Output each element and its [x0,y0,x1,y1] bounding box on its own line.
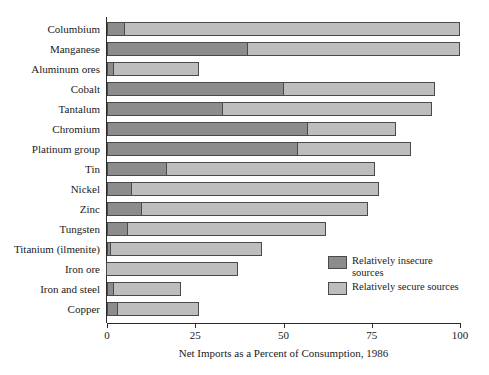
category-label: Manganese [0,42,100,56]
bar-segment-insecure [107,222,128,236]
category-label: Iron ore [0,262,100,276]
x-axis-tick-label: 0 [87,329,127,342]
stacked-bar [107,262,238,276]
bar-row: Manganese [0,42,489,56]
bar-segment-secure [222,102,431,116]
category-label: Tantalum [0,102,100,116]
x-axis-tick [284,323,285,328]
secure-swatch-icon [328,282,347,295]
stacked-bar [107,302,199,316]
bar-segment-secure [247,42,460,56]
stacked-bar [107,202,368,216]
bar-segment-insecure [107,22,125,36]
bar-row: Zinc [0,202,489,216]
category-label: Titanium (ilmenite) [0,242,100,256]
stacked-bar [107,182,379,196]
category-label: Tungsten [0,222,100,236]
bar-segment-secure [124,22,460,36]
bar-row: Nickel [0,182,489,196]
stacked-bar [107,62,199,76]
bar-segment-insecure [107,202,142,216]
stacked-bar [107,142,411,156]
insecure-swatch-icon [328,256,347,269]
bar-segment-secure [110,242,263,256]
bar-segment-insecure [107,82,284,96]
bar-row: Copper [0,302,489,316]
stacked-bar [107,102,432,116]
category-label: Tin [0,162,100,176]
x-axis-tick-label: 100 [440,329,480,342]
stacked-bar [107,222,326,236]
x-axis-tick-label: 25 [175,329,215,342]
category-label: Aluminum ores [0,62,100,76]
x-axis-tick-label: 50 [264,329,304,342]
bar-segment-secure [307,122,396,136]
bar-segment-secure [106,262,238,276]
bar-segment-insecure [107,142,298,156]
bar-segment-secure [113,282,181,296]
bar-segment-secure [166,162,375,176]
x-axis-tick-label: 75 [352,329,392,342]
bar-row: Chromium [0,122,489,136]
category-label: Columbium [0,22,100,36]
stacked-bar [107,162,375,176]
bar-segment-secure [297,142,411,156]
x-axis-tick [107,323,108,328]
legend-label-secure: Relatively secure sources [352,281,459,293]
bar-segment-secure [127,222,326,236]
bar-segment-secure [117,302,199,316]
bar-segment-secure [113,62,199,76]
x-axis-tick [372,323,373,328]
chart-legend: Relatively insecure sources Relatively s… [328,255,468,298]
bar-segment-insecure [107,102,223,116]
bar-segment-insecure [107,182,132,196]
bar-segment-secure [283,82,436,96]
category-label: Iron and steel [0,282,100,296]
category-label: Nickel [0,182,100,196]
bar-segment-secure [141,202,368,216]
legend-item-insecure: Relatively insecure sources [328,255,468,278]
bar-segment-insecure [107,42,248,56]
x-axis-tick [460,323,461,328]
stacked-bar [107,242,262,256]
stacked-bar [107,22,460,36]
bar-row: Cobalt [0,82,489,96]
category-label: Chromium [0,122,100,136]
bar-row: Tantalum [0,102,489,116]
bar-segment-insecure [107,122,308,136]
legend-label-insecure: Relatively insecure sources [352,255,460,278]
stacked-bar [107,82,435,96]
bar-row: Tungsten [0,222,489,236]
bar-row: Aluminum ores [0,62,489,76]
bar-row: Tin [0,162,489,176]
category-label: Platinum group [0,142,100,156]
stacked-bar-chart: ColumbiumManganeseAluminum oresCobaltTan… [0,0,489,375]
bar-row: Columbium [0,22,489,36]
x-axis-tick [195,323,196,328]
category-label: Copper [0,302,100,316]
stacked-bar [107,282,181,296]
stacked-bar [107,122,396,136]
x-axis-title: Net Imports as a Percent of Consumption,… [107,347,460,359]
bar-row: Titanium (ilmenite) [0,242,489,256]
bar-row: Platinum group [0,142,489,156]
category-label: Zinc [0,202,100,216]
bar-segment-secure [131,182,379,196]
category-label: Cobalt [0,82,100,96]
bar-segment-insecure [107,162,167,176]
stacked-bar [107,42,460,56]
legend-item-secure: Relatively secure sources [328,281,468,295]
